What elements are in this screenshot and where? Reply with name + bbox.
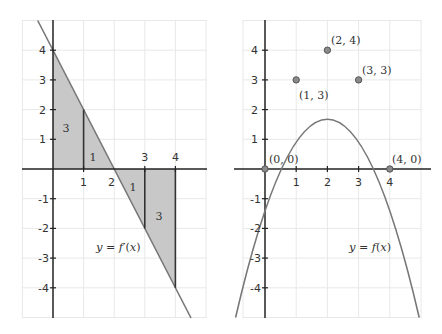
point-4-0 [387, 166, 393, 172]
area-label-3-4: 3 [156, 210, 163, 223]
right-xtick-1: 1 [293, 176, 300, 189]
right-point-labels: (0, 0) (1, 3) (2, 4) (3, 3) (4, 0) [269, 34, 422, 166]
right-equation-label: y = f(x) [348, 240, 391, 254]
right-x-tick-labels: 1 2 3 4 [293, 176, 394, 189]
left-ytick-neg2: -2 [38, 222, 49, 235]
label-0-0: (0, 0) [269, 153, 299, 166]
figure: 4 3 2 1 -1 -2 -3 -4 1 2 3 4 3 1 1 3 y = … [0, 0, 442, 334]
right-ytick-1: 1 [251, 133, 258, 146]
right-ytick-neg2: -2 [250, 222, 261, 235]
right-ytick-neg1: -1 [250, 193, 261, 206]
area-label-1-2: 1 [90, 151, 97, 164]
left-ytick-neg1: -1 [38, 193, 49, 206]
area-label-2-3: 1 [130, 181, 137, 194]
point-2-4 [324, 47, 330, 53]
label-2-4: (2, 4) [331, 34, 361, 47]
left-xtick-1: 1 [80, 176, 87, 189]
area-label-0-1: 3 [63, 122, 70, 135]
right-ytick-3: 3 [251, 74, 258, 87]
left-chart: 4 3 2 1 -1 -2 -3 -4 1 2 3 4 3 1 1 3 y = … [22, 20, 207, 318]
right-xtick-4: 4 [386, 176, 393, 189]
point-1-3 [293, 77, 299, 83]
left-equation-label: y = f′(x) [95, 240, 141, 254]
right-ytick-neg4: -4 [250, 282, 261, 295]
right-ytick-neg3: -3 [250, 252, 261, 265]
left-ytick-neg4: -4 [38, 282, 49, 295]
right-ytick-4: 4 [251, 44, 258, 57]
right-xtick-2: 2 [324, 176, 331, 189]
point-3-3 [355, 77, 361, 83]
label-1-3: (1, 3) [299, 89, 329, 102]
left-ytick-3: 3 [39, 74, 46, 87]
right-ytick-2: 2 [251, 104, 258, 117]
label-3-3: (3, 3) [362, 64, 392, 77]
left-ytick-1: 1 [39, 133, 46, 146]
left-xtick-2: 2 [108, 176, 115, 189]
left-ytick-4: 4 [39, 44, 46, 57]
right-chart: (0, 0) (1, 3) (2, 4) (3, 3) (4, 0) 4 3 2… [234, 20, 431, 318]
left-ytick-2: 2 [39, 104, 46, 117]
left-xtick-4: 4 [172, 151, 179, 164]
point-0-0 [262, 166, 268, 172]
left-ytick-neg3: -3 [38, 252, 49, 265]
right-xtick-3: 3 [355, 176, 362, 189]
label-4-0: (4, 0) [392, 153, 422, 166]
left-xtick-3: 3 [141, 151, 148, 164]
